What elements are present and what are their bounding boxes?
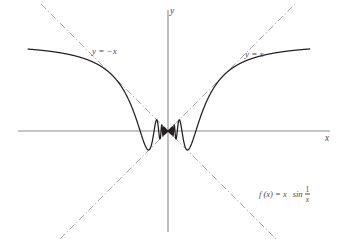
function-label-prefix: f (x) = x: [259, 190, 287, 199]
asymptote-label-positive: y = x: [245, 50, 264, 59]
x-axis-label: x: [325, 134, 329, 144]
asymptote-label-negative: y = −x: [92, 47, 117, 56]
fraction-one-over-x: 1 x: [305, 186, 311, 203]
function-curve: [28, 49, 310, 150]
fraction-denominator: x: [305, 195, 310, 203]
function-expression-label: f (x) = x sin 1 x: [259, 186, 310, 203]
function-label-operator: sin: [293, 190, 303, 199]
y-axis-label: y: [170, 7, 174, 17]
fraction-numerator: 1: [305, 186, 311, 194]
function-graph-figure: y x y = −x y = x f (x) = x sin 1 x: [0, 0, 339, 239]
plot-canvas: [0, 0, 339, 239]
